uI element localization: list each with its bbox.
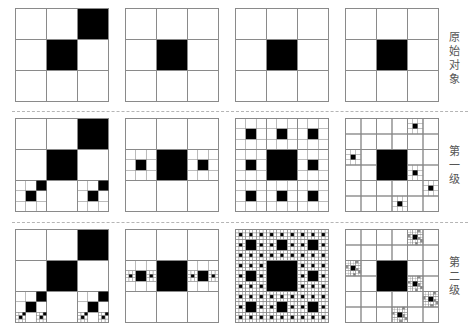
fractal-panel-r3-c2 — [125, 229, 219, 323]
fractal-panel-r1-c4 — [345, 8, 439, 102]
row-label-level-1: 第一级 — [446, 145, 462, 187]
fractal-panel-r1-c2 — [125, 8, 219, 102]
fractal-panel-r1-c3 — [235, 8, 329, 102]
fractal-panel-r2-c3 — [235, 118, 329, 212]
fractal-panel-r3-c1 — [15, 229, 109, 323]
fractal-panel-r2-c1 — [15, 118, 109, 212]
separator-1 — [12, 111, 468, 112]
separator-2 — [12, 222, 468, 223]
fractal-panel-r2-c4 — [345, 118, 439, 212]
fractal-panel-r3-c4 — [345, 229, 439, 323]
fractal-panel-r2-c2 — [125, 118, 219, 212]
fractal-panel-r3-c3 — [235, 229, 329, 323]
row-label-original: 原始对象 — [446, 31, 462, 87]
fractal-panel-r1-c1 — [15, 8, 109, 102]
row-label-level-2: 第二级 — [446, 256, 462, 298]
